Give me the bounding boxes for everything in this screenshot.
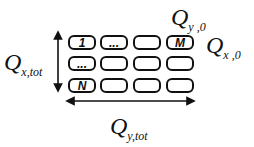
- label-q-ytot: Qy,tot: [110, 113, 148, 140]
- grid-cell-r2-c4: [166, 56, 194, 71]
- grid-cell-r3-c1: N: [68, 78, 96, 93]
- grid-cell-r1-c1: 1: [68, 35, 96, 50]
- grid-cell-r3-c3: [133, 78, 161, 93]
- grid-cell-r1-c3: [133, 35, 161, 50]
- label-q-x0: Qx ,0: [206, 32, 241, 59]
- grid-cell-r1-c4: M: [166, 35, 194, 50]
- grid-cell-r3-c2: [100, 78, 128, 93]
- grid-cell-r3-c4: [166, 78, 194, 93]
- horizontal-double-arrow: [67, 98, 194, 105]
- grid-cell-r2-c2: [100, 56, 128, 71]
- label-q-y0: Qy ,0: [171, 4, 206, 31]
- label-q-xtot: Qx,tot: [4, 49, 42, 76]
- grid-cell-r2-c3: [133, 56, 161, 71]
- grid-cell-r1-c2: ...: [100, 35, 128, 50]
- grid-cell-r2-c1: ...: [68, 56, 96, 71]
- vertical-double-arrow: [55, 32, 62, 91]
